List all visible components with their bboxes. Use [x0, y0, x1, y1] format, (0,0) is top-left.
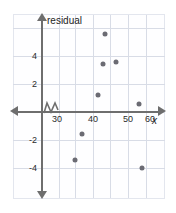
gridline-vertical [93, 14, 94, 199]
gridline-vertical [146, 14, 147, 199]
y-axis-label: residual [47, 15, 82, 26]
gridline-horizontal [13, 28, 165, 29]
data-point [136, 101, 141, 106]
data-point [113, 59, 118, 64]
x-tick-label: 60 [145, 114, 155, 124]
data-point [101, 62, 106, 67]
residual-plot: residual x 30 40 50 60 4 2 -2 -4 [0, 0, 176, 213]
data-point [72, 157, 77, 162]
y-tick-label: -2 [22, 135, 37, 145]
x-axis-arrow-right-icon [158, 106, 166, 116]
gridline-vertical [75, 14, 76, 199]
gridline-horizontal [13, 14, 165, 15]
x-tick-label: 50 [123, 114, 133, 124]
data-point [102, 31, 107, 36]
gridline-horizontal [13, 198, 165, 199]
x-axis-arrow-left-icon [10, 106, 18, 116]
gridline-vertical [110, 14, 111, 199]
y-axis-arrow-down-icon [37, 191, 47, 199]
y-tick-label: 2 [24, 79, 37, 89]
x-axis-line [16, 111, 160, 113]
x-tick-label: 40 [88, 114, 98, 124]
axis-break-icon [43, 101, 59, 114]
y-tick-label: 4 [24, 51, 37, 61]
data-point [79, 132, 84, 137]
data-point [140, 166, 145, 171]
data-point [95, 93, 100, 98]
y-tick-label: -4 [22, 163, 37, 173]
x-tick-label: 30 [52, 114, 62, 124]
gridline-vertical [128, 14, 129, 199]
y-axis-arrow-up-icon [37, 13, 47, 21]
gridline-vertical [59, 14, 60, 199]
